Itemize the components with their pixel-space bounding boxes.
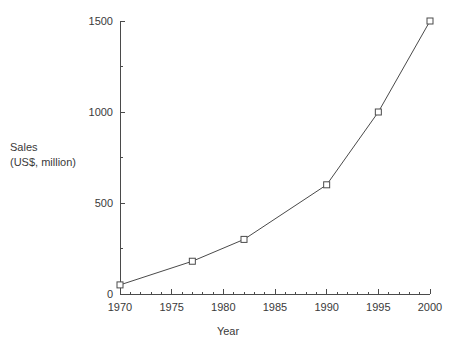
- y-axis-title-line-1: Sales: [10, 140, 76, 155]
- plot-area: [0, 0, 456, 348]
- data-point-marker: [241, 236, 247, 242]
- x-tick-label: 1975: [152, 301, 192, 313]
- data-series-sales: [117, 18, 433, 288]
- data-point-marker: [117, 282, 123, 288]
- x-tick-label: 1970: [100, 301, 140, 313]
- y-axis-title-line-2: (US$, million): [10, 155, 76, 170]
- x-tick-label: 1980: [203, 301, 243, 313]
- data-point-marker: [324, 182, 330, 188]
- y-tick-label: 0: [107, 288, 113, 300]
- y-tick-label: 500: [95, 197, 113, 209]
- x-axis-title: Year: [0, 325, 456, 337]
- sales-line-chart: Sales (US$, million) Year 05001000150019…: [0, 0, 456, 348]
- data-point-marker: [427, 18, 433, 24]
- axes: [120, 21, 430, 294]
- x-tick-label: 2000: [410, 301, 450, 313]
- data-point-marker: [375, 109, 381, 115]
- y-axis-title: Sales (US$, million): [10, 140, 76, 170]
- series-line: [120, 21, 430, 285]
- x-tick-label: 1990: [307, 301, 347, 313]
- x-tick-label: 1995: [358, 301, 398, 313]
- data-point-marker: [189, 258, 195, 264]
- y-tick-label: 1000: [89, 106, 113, 118]
- y-tick-label: 1500: [89, 15, 113, 27]
- x-tick-label: 1985: [255, 301, 295, 313]
- axis-ticks: [120, 21, 430, 294]
